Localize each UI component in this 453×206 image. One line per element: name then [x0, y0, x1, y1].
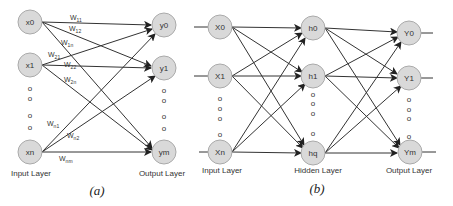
svg-text:o: o: [407, 95, 412, 104]
panel-b-input-hidden-edges: [232, 27, 305, 153]
panel-b-hidden-layer-label: Hidden Layer: [294, 166, 342, 175]
node-x1-label: x1: [26, 61, 35, 70]
panel-b: X0 X1 Xn o o o o h0 h1 hq o o o o: [194, 15, 436, 196]
node-ym-label: ym: [159, 148, 170, 157]
panel-a-edges: [42, 22, 155, 152]
panel-a: W11 W12 W1n W21 W22 W2n Wn1 Wn2 Wnm x0 x…: [11, 10, 185, 198]
svg-text:o: o: [28, 111, 33, 120]
panel-a-output-ellipsis: o o o o: [162, 86, 167, 133]
node-Ym-label: Ym: [404, 148, 416, 157]
svg-text:o: o: [218, 94, 223, 103]
panel-b-output-layer-label: Output Layer: [386, 166, 433, 175]
node-X1-label: X1: [215, 72, 225, 81]
node-hq-label: hq: [309, 149, 318, 158]
svg-text:o: o: [218, 130, 223, 139]
panel-a-input-ellipsis: o o o o: [28, 84, 33, 132]
panel-b-hidden-ellipsis: o o o o: [311, 90, 316, 138]
svg-text:o: o: [407, 114, 412, 123]
svg-text:o: o: [407, 105, 412, 114]
node-x0-label: x0: [26, 18, 35, 27]
weight-w11: W11: [70, 14, 82, 23]
svg-text:o: o: [162, 112, 167, 121]
svg-text:o: o: [311, 99, 316, 108]
panel-b-hidden-output-edges: [325, 28, 401, 153]
panel-b-input-ellipsis: o o o o: [218, 94, 223, 139]
panel-b-input-nodes: X0 X1 Xn: [208, 15, 232, 164]
weight-w12: W12: [69, 25, 81, 34]
weight-wn1: Wn1: [47, 120, 59, 129]
panel-b-caption: (b): [309, 181, 324, 196]
weight-wnm: Wnm: [59, 155, 73, 164]
node-xn-label: xn: [26, 148, 34, 157]
weight-wn2: Wn2: [67, 132, 79, 141]
svg-text:o: o: [28, 94, 33, 103]
node-X0-label: X0: [215, 23, 225, 32]
svg-text:o: o: [311, 129, 316, 138]
panel-a-input-layer-label: Input Layer: [11, 169, 51, 178]
neural-network-diagram: W11 W12 W1n W21 W22 W2n Wn1 Wn2 Wnm x0 x…: [0, 0, 453, 206]
svg-text:o: o: [311, 109, 316, 118]
svg-text:o: o: [162, 96, 167, 105]
weight-w22: W22: [64, 61, 76, 70]
node-y1-label: y1: [160, 64, 169, 73]
node-Y0-label: Y0: [404, 29, 414, 38]
panel-a-output-layer-label: Output Layer: [139, 169, 186, 178]
svg-text:o: o: [218, 114, 223, 123]
node-h0-label: h0: [309, 24, 318, 33]
panel-b-input-layer-label: Input Layer: [202, 166, 242, 175]
node-h1-label: h1: [309, 72, 318, 81]
node-y0-label: y0: [160, 21, 169, 30]
panel-a-caption: (a): [89, 183, 104, 198]
svg-text:o: o: [407, 132, 412, 141]
node-Xn-label: Xn: [215, 148, 225, 157]
svg-text:o: o: [218, 104, 223, 113]
svg-text:o: o: [162, 124, 167, 133]
svg-text:o: o: [28, 84, 33, 93]
panel-b-output-ellipsis: o o o o: [407, 95, 412, 141]
svg-text:o: o: [28, 123, 33, 132]
weight-w21: W21: [48, 51, 60, 60]
svg-text:o: o: [311, 90, 316, 99]
svg-text:o: o: [162, 86, 167, 95]
node-Y1-label: Y1: [404, 74, 414, 83]
